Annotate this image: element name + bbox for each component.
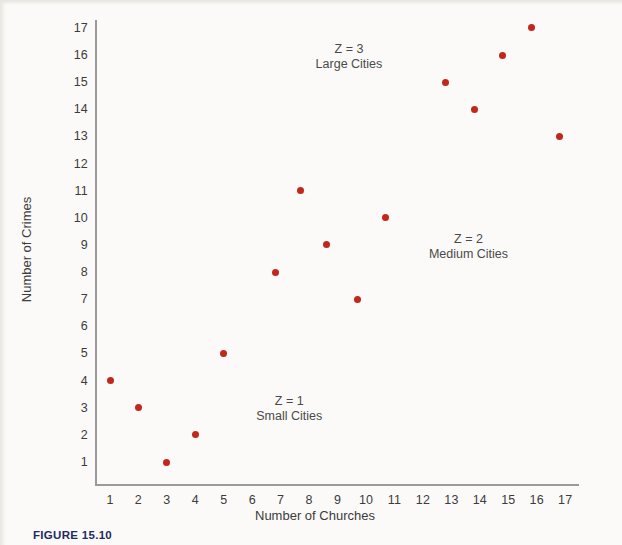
x-tick-7: 7 — [269, 490, 293, 508]
cluster-group-name: Large Cities — [289, 57, 409, 72]
y-tick-11: 11 — [62, 184, 88, 198]
data-point — [471, 106, 478, 113]
y-tick-10: 10 — [62, 211, 88, 225]
x-tick-14: 14 — [468, 490, 492, 508]
x-tick-label: 12 — [416, 493, 430, 507]
y-tick-8: 8 — [62, 265, 88, 279]
x-tick-label: 5 — [220, 493, 227, 507]
x-tick-4: 4 — [183, 490, 207, 508]
x-tick-label: 9 — [334, 493, 341, 507]
y-tick-label: 8 — [62, 265, 88, 279]
y-tick-label: 3 — [62, 401, 88, 415]
data-point — [297, 187, 304, 194]
y-tick-label: 12 — [62, 157, 88, 171]
data-point — [382, 214, 389, 221]
y-tick-2: 2 — [62, 428, 88, 442]
y-tick-label: 1 — [62, 455, 88, 469]
y-tick-14: 14 — [62, 102, 88, 116]
y-tick-label: 5 — [62, 346, 88, 360]
x-tick-label: 8 — [306, 493, 313, 507]
y-tick-label: 16 — [62, 48, 88, 62]
cluster-z-value: Z = 1 — [229, 394, 349, 409]
x-tick-17: 17 — [553, 490, 577, 508]
y-axis-title: Number of Crimes — [19, 180, 34, 320]
x-tick-label: 17 — [558, 493, 572, 507]
cluster-z-value: Z = 2 — [408, 232, 528, 247]
data-point — [163, 459, 170, 466]
data-point — [323, 241, 330, 248]
y-tick-3: 3 — [62, 401, 88, 415]
y-tick-label: 17 — [62, 21, 88, 35]
y-tick-15: 15 — [62, 75, 88, 89]
x-tick-12: 12 — [411, 490, 435, 508]
y-tick-label: 7 — [62, 292, 88, 306]
y-tick-13: 13 — [62, 129, 88, 143]
x-tick-6: 6 — [240, 490, 264, 508]
x-tick-label: 11 — [388, 493, 401, 507]
y-tick-label: 13 — [62, 129, 88, 143]
data-point — [107, 377, 114, 384]
figure-scatter-plot: 1234567891011121314151617 12345678910111… — [0, 0, 622, 545]
x-tick-label: 7 — [277, 493, 284, 507]
y-tick-12: 12 — [62, 157, 88, 171]
y-tick-label: 14 — [62, 102, 88, 116]
y-tick-label: 15 — [62, 75, 88, 89]
data-point — [354, 296, 361, 303]
x-tick-15: 15 — [496, 490, 520, 508]
x-tick-5: 5 — [212, 490, 236, 508]
y-tick-17: 17 — [62, 21, 88, 35]
x-tick-label: 15 — [501, 493, 515, 507]
y-tick-label: 6 — [62, 319, 88, 333]
data-point — [499, 52, 506, 59]
x-tick-label: 16 — [530, 493, 544, 507]
cluster-group-name: Medium Cities — [408, 247, 528, 262]
x-tick-label: 10 — [359, 493, 373, 507]
y-tick-16: 16 — [62, 48, 88, 62]
y-tick-label: 2 — [62, 428, 88, 442]
y-tick-label: 9 — [62, 238, 88, 252]
cluster-annotation-medium-cities: Z = 2Medium Cities — [408, 232, 528, 262]
y-tick-7: 7 — [62, 292, 88, 306]
data-point — [528, 24, 535, 31]
cluster-group-name: Small Cities — [229, 409, 349, 424]
x-tick-13: 13 — [439, 490, 463, 508]
x-tick-label: 4 — [192, 493, 199, 507]
cluster-annotation-large-cities: Z = 3Large Cities — [289, 42, 409, 72]
x-tick-label: 13 — [444, 493, 458, 507]
y-axis-line — [95, 20, 97, 486]
figure-caption: FIGURE 15.10 — [33, 529, 112, 541]
data-point — [556, 133, 563, 140]
y-tick-label: 10 — [62, 211, 88, 225]
x-tick-8: 8 — [297, 490, 321, 508]
x-axis-line — [95, 484, 579, 486]
data-point — [272, 269, 279, 276]
x-tick-3: 3 — [155, 490, 179, 508]
x-tick-label: 3 — [163, 493, 170, 507]
y-tick-label: 4 — [62, 374, 88, 388]
x-tick-label: 6 — [249, 493, 256, 507]
cluster-z-value: Z = 3 — [289, 42, 409, 57]
data-point — [192, 431, 199, 438]
y-tick-1: 1 — [62, 455, 88, 469]
y-tick-6: 6 — [62, 319, 88, 333]
x-tick-2: 2 — [126, 490, 150, 508]
y-tick-label: 11 — [62, 184, 88, 198]
x-tick-label: 2 — [135, 493, 142, 507]
x-tick-1: 1 — [98, 490, 122, 508]
x-tick-10: 10 — [354, 490, 378, 508]
data-point — [220, 350, 227, 357]
y-tick-9: 9 — [62, 238, 88, 252]
y-tick-5: 5 — [62, 346, 88, 360]
x-tick-label: 1 — [106, 493, 113, 507]
page-edge-shading-top — [0, 0, 622, 5]
cluster-annotation-small-cities: Z = 1Small Cities — [229, 394, 349, 424]
x-tick-16: 16 — [525, 490, 549, 508]
x-tick-11: 11 — [383, 490, 407, 508]
x-tick-9: 9 — [326, 490, 350, 508]
data-point — [442, 79, 449, 86]
y-tick-4: 4 — [62, 374, 88, 388]
x-axis-title: Number of Churches — [255, 508, 375, 523]
x-tick-label: 14 — [473, 493, 487, 507]
page-edge-shading-left — [0, 0, 6, 545]
data-point — [135, 404, 142, 411]
